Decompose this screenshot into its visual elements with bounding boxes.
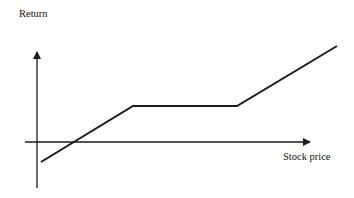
payoff-line <box>41 46 337 162</box>
y-axis-label: Return <box>19 8 48 19</box>
x-axis-label: Stock price <box>283 151 331 162</box>
diagram-canvas <box>0 0 354 198</box>
payoff-diagram: Return Stock price <box>0 0 354 198</box>
